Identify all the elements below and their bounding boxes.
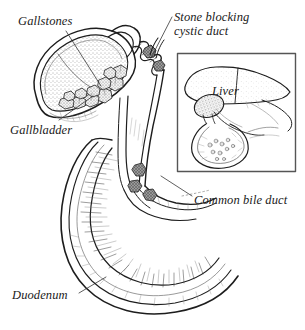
label-stone-line2: cystic duct bbox=[174, 24, 249, 38]
liver-inset bbox=[178, 54, 296, 172]
label-duodenum: Duodenum bbox=[12, 288, 68, 302]
impacted-stone-secondary bbox=[153, 60, 165, 71]
label-gallbladder: Gallbladder bbox=[10, 123, 72, 137]
label-gallstones: Gallstones bbox=[18, 14, 72, 28]
label-stone-line1: Stone blocking bbox=[174, 10, 249, 24]
illustration-canvas bbox=[0, 0, 305, 330]
gallstones-illustration: Gallstones Gallbladder Duodenum Stone bl… bbox=[0, 0, 305, 330]
label-liver: Liver bbox=[212, 84, 239, 98]
label-stone-blocking-cystic-duct: Stone blocking cystic duct bbox=[174, 10, 249, 38]
label-common-bile-duct: Common bile duct bbox=[194, 193, 287, 207]
cbd-leader bbox=[161, 176, 192, 196]
common-bile-duct-stones bbox=[128, 163, 157, 201]
stone-leader bbox=[151, 17, 172, 58]
